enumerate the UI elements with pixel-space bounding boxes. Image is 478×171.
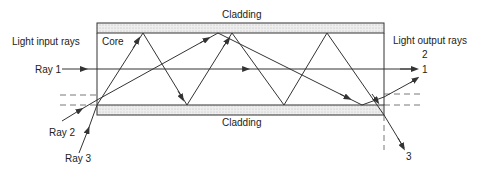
cladding-bottom xyxy=(97,105,384,115)
output-3-label: 3 xyxy=(406,152,412,162)
ray-2-label: Ray 2 xyxy=(49,128,75,138)
cladding-top xyxy=(97,23,384,33)
cladding-bottom-label: Cladding xyxy=(222,118,261,128)
output-rays-label: Light output rays xyxy=(393,36,467,46)
fiber-diagram xyxy=(0,0,478,171)
cladding-top-label: Cladding xyxy=(222,10,261,20)
ray-1-label: Ray 1 xyxy=(35,65,61,75)
ray-3 xyxy=(79,33,404,153)
output-1-label: 1 xyxy=(422,65,428,75)
output-2-label: 2 xyxy=(422,50,428,60)
core-label: Core xyxy=(102,37,124,47)
input-rays-label: Light input rays xyxy=(12,37,80,47)
ray-3-label: Ray 3 xyxy=(65,154,91,164)
